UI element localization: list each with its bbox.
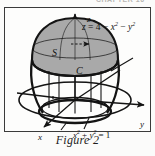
eq-exp-x: 2 bbox=[115, 21, 118, 27]
eq-const: 4 bbox=[96, 22, 101, 32]
eq-exp-y: 2 bbox=[132, 21, 135, 27]
surface-equation: z = 4 − x2 − y2 bbox=[82, 22, 135, 33]
y-axis-label: y bbox=[140, 120, 144, 129]
figure-caption: Figure 2 bbox=[0, 133, 155, 148]
running-head: CHAPTER 16 bbox=[96, 0, 154, 4]
y-axis-back bbox=[17, 93, 75, 100]
eq-equals: = bbox=[88, 22, 93, 32]
figure-panel: CHAPTER 16 bbox=[0, 0, 155, 156]
figure-frame: z y x S C z = 4 − x2 − y2 x2 + y2 = 1 bbox=[4, 7, 151, 132]
eq-lhs: z bbox=[82, 22, 86, 32]
surface-label-s: S bbox=[52, 48, 57, 58]
curve-label-c: C bbox=[76, 66, 83, 76]
eq-minus-1: − bbox=[103, 22, 108, 32]
eq-minus-2: − bbox=[120, 22, 125, 32]
cylinder-rulings bbox=[49, 71, 101, 114]
